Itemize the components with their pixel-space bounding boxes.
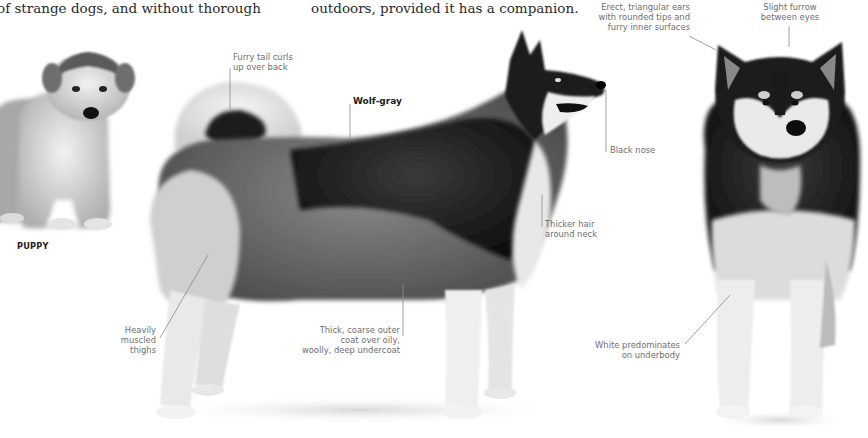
annotation-furrow: Slight furrow between eyes — [752, 2, 828, 22]
annotation-tail: Furry tail curls up over back — [233, 52, 293, 72]
annotation-ears: Erect, triangular ears with rounded tips… — [590, 2, 690, 32]
ears-leader — [689, 36, 716, 50]
front-view-photo — [704, 42, 860, 430]
annotation-color: Wolf-gray — [353, 96, 402, 106]
annotation-neck: Thicker hair around neck — [545, 219, 597, 239]
annotation-nose: Black nose — [610, 145, 655, 155]
annotation-coat: Thick, coarse outer coat over oily, wool… — [290, 325, 400, 355]
annotation-thighs: Heavily muscled thighs — [88, 325, 156, 355]
puppy-photo — [0, 52, 135, 234]
illustrations — [0, 0, 868, 438]
side-view-photo — [150, 30, 606, 424]
puppy-caption: PUPPY — [17, 241, 49, 251]
annotation-underbody: White predominates on underbody — [580, 340, 680, 360]
